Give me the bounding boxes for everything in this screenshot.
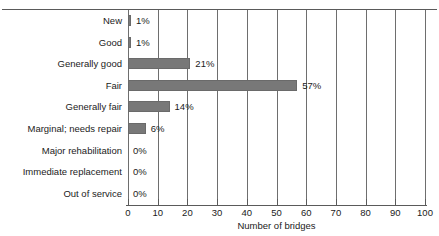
category-label: Generally fair xyxy=(0,96,122,118)
category-label: Immediate replacement xyxy=(0,161,122,183)
bar xyxy=(128,37,131,48)
bar xyxy=(128,123,146,134)
x-tick-10 xyxy=(158,199,159,205)
category-label: Major rehabilitation xyxy=(0,140,122,162)
x-tick-label: 60 xyxy=(291,207,321,218)
x-tick-70 xyxy=(336,199,337,205)
bar-value-label: 1% xyxy=(136,10,150,32)
bar xyxy=(128,80,297,91)
bar-value-label: 21% xyxy=(195,53,214,75)
x-tick-label: 30 xyxy=(202,207,232,218)
bar-row: Major rehabilitation0% xyxy=(0,140,439,162)
bar-value-label: 0% xyxy=(133,161,147,183)
bar-row: Fair57% xyxy=(0,75,439,97)
bar-row: Immediate replacement0% xyxy=(0,161,439,183)
bar xyxy=(128,58,190,69)
category-label: Fair xyxy=(0,75,122,97)
x-tick-label: 0 xyxy=(113,207,143,218)
bar-row: New1% xyxy=(0,10,439,32)
bar-value-label: 14% xyxy=(175,96,194,118)
x-tick-80 xyxy=(366,199,367,205)
category-label: Marginal; needs repair xyxy=(0,118,122,140)
x-tick-label: 20 xyxy=(172,207,202,218)
bar-value-label: 57% xyxy=(302,75,321,97)
bar-value-label: 0% xyxy=(133,183,147,205)
x-tick-label: 90 xyxy=(380,207,410,218)
x-tick-50 xyxy=(277,199,278,205)
x-axis-line xyxy=(126,205,427,206)
x-tick-label: 80 xyxy=(351,207,381,218)
x-tick-40 xyxy=(247,199,248,205)
bar-value-label: 0% xyxy=(133,140,147,162)
bar-row: Generally good21% xyxy=(0,53,439,75)
x-tick-0 xyxy=(128,199,129,205)
category-label: Good xyxy=(0,32,122,54)
bar-value-label: 6% xyxy=(151,118,165,140)
bar xyxy=(128,101,170,112)
x-tick-30 xyxy=(217,199,218,205)
x-tick-label: 70 xyxy=(321,207,351,218)
bar-row: Out of service0% xyxy=(0,183,439,205)
bar-row: Marginal; needs repair6% xyxy=(0,118,439,140)
bar-value-label: 1% xyxy=(136,32,150,54)
bar-row: Generally fair14% xyxy=(0,96,439,118)
category-label: Out of service xyxy=(0,183,122,205)
bar xyxy=(128,15,131,26)
x-tick-60 xyxy=(306,199,307,205)
x-tick-20 xyxy=(187,199,188,205)
x-tick-90 xyxy=(395,199,396,205)
bar-chart-figure: New1%Good1%Generally good21%Fair57%Gener… xyxy=(0,0,439,236)
x-tick-100 xyxy=(425,199,426,205)
bar-row: Good1% xyxy=(0,32,439,54)
x-tick-label: 10 xyxy=(143,207,173,218)
x-tick-label: 100 xyxy=(410,207,439,218)
x-axis-title: Number of bridges xyxy=(128,220,425,231)
category-label: New xyxy=(0,10,122,32)
category-label: Generally good xyxy=(0,53,122,75)
x-tick-label: 50 xyxy=(262,207,292,218)
x-tick-label: 40 xyxy=(232,207,262,218)
